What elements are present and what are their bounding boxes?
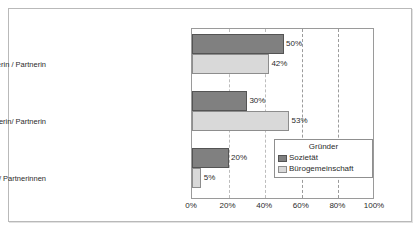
bar-value-label: 20% <box>231 153 247 162</box>
bar-value-label: 50% <box>286 39 302 48</box>
bar-group: 50% 42% <box>192 29 373 86</box>
chart-figure: keine Gesellschafterin / Partnerin eine … <box>8 8 412 222</box>
bar-buerogemeinschaft <box>192 168 201 188</box>
bar-sozietaet <box>192 34 284 54</box>
x-tick-label: 40% <box>256 201 272 210</box>
x-tick-label: 20% <box>220 201 236 210</box>
chart-legend: Gründer Sozietät Bürogemeinschaft <box>274 139 373 178</box>
category-label: eine Gesellschafterin/ Partnerin <box>0 117 46 126</box>
legend-swatch-icon <box>278 166 287 173</box>
bar-sozietaet <box>192 148 229 168</box>
plot-area: 50% 42% 30% 53% 20% 5% Gründer Sozietät <box>191 28 374 199</box>
bar-buerogemeinschaft <box>192 111 289 131</box>
x-tick-label: 60% <box>293 201 309 210</box>
bar-group: 30% 53% <box>192 86 373 143</box>
category-label: keine Gesellschafterin / Partnerin <box>0 60 46 69</box>
bar-value-label: 30% <box>249 96 265 105</box>
legend-label: Sozietät <box>289 153 318 163</box>
bar-buerogemeinschaft <box>192 54 269 74</box>
bar-value-label: 53% <box>292 116 308 125</box>
x-tick-label: 100% <box>364 201 384 210</box>
x-tick-label: 80% <box>329 201 345 210</box>
x-tick-label: 0% <box>185 201 197 210</box>
bar-value-label: 42% <box>271 59 287 68</box>
category-label: zwei Gesellschafterinnen/ Partnerinnen <box>0 174 46 183</box>
legend-item-buerogemeinschaft: Bürogemeinschaft <box>278 164 369 174</box>
legend-item-sozietaet: Sozietät <box>278 153 369 163</box>
legend-label: Bürogemeinschaft <box>289 164 353 174</box>
bar-sozietaet <box>192 91 247 111</box>
bar-value-label: 5% <box>204 173 216 182</box>
legend-swatch-icon <box>278 155 287 162</box>
legend-title: Gründer <box>278 142 369 152</box>
